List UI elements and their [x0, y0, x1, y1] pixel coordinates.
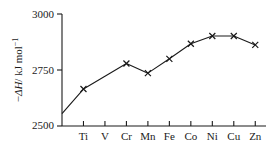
data-point-mn [145, 70, 151, 76]
svg-text:−ΔH/ kJ mol−1: −ΔH/ kJ mol−1 [11, 38, 24, 103]
x-tick-label-ti: Ti [79, 130, 88, 142]
y-axis-title-units: / kJ mol [12, 46, 24, 81]
data-point-cr [123, 61, 129, 67]
x-tick-label-cu: Cu [227, 130, 240, 142]
x-tick-label-fe: Fe [164, 130, 175, 142]
y-axis-title-delta: Δ [12, 90, 24, 97]
x-tick-label-zn: Zn [249, 130, 262, 142]
x-axis-ticks [83, 121, 255, 126]
y-tick-label-3000: 3000 [32, 8, 55, 20]
x-tick-label-co: Co [184, 130, 197, 142]
marker-x-glyph [188, 41, 194, 47]
marker-x-glyph [166, 56, 172, 62]
y-tick-label-2750: 2750 [32, 64, 55, 76]
marker-x-glyph [252, 42, 258, 48]
x-tick-label-mn: Mn [140, 130, 156, 142]
data-point-fe [166, 56, 172, 62]
marker-x-glyph [145, 70, 151, 76]
x-tick-label-v: V [101, 130, 109, 142]
data-series-line [62, 36, 255, 114]
line-chart: −ΔH/ kJ mol−1 3000 2750 2500 TiVCrMnFeCo… [0, 0, 276, 151]
data-point-ti [80, 86, 86, 92]
y-axis-ticks [57, 14, 62, 126]
x-tick-label-ni: Ni [207, 130, 218, 142]
y-tick-label-2500: 2500 [32, 119, 55, 131]
chart-container: −ΔH/ kJ mol−1 3000 2750 2500 TiVCrMnFeCo… [0, 0, 276, 151]
axes [62, 14, 266, 126]
y-axis-title-exponent: −1 [11, 38, 20, 47]
data-point-zn [252, 42, 258, 48]
x-tick-label-cr: Cr [121, 130, 132, 142]
x-axis-tick-labels: TiVCrMnFeCoNiCuZn [79, 130, 262, 142]
y-axis-title: −ΔH/ kJ mol−1 [11, 38, 24, 103]
marker-x-glyph [80, 86, 86, 92]
data-point-co [188, 41, 194, 47]
y-axis-tick-labels: 3000 2750 2500 [32, 8, 55, 131]
marker-x-glyph [123, 61, 129, 67]
data-series-markers [80, 33, 258, 92]
series-polyline [62, 36, 255, 114]
